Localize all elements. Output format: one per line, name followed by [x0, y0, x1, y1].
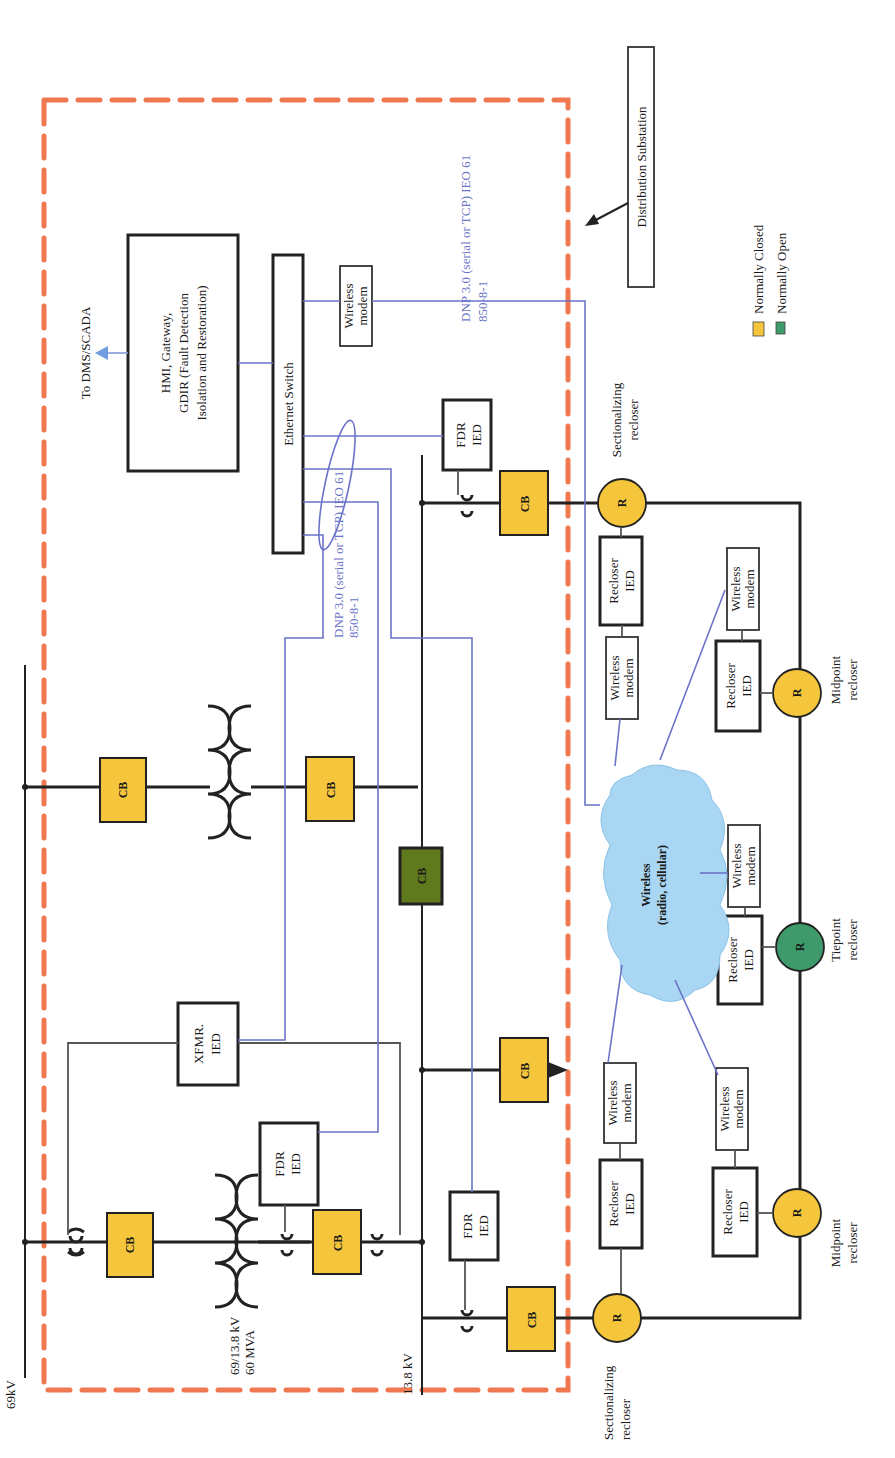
svg-text:CB: CB: [415, 868, 429, 885]
svg-text:Distribution Substation: Distribution Substation: [634, 106, 649, 227]
transformer-icon: [208, 706, 251, 838]
label-69kv: 69kV: [3, 1379, 18, 1409]
svg-text:R: R: [793, 942, 807, 951]
arrow-left-icon: [95, 346, 108, 360]
svg-text:Midpoint: Midpoint: [828, 1218, 843, 1267]
svg-text:R: R: [790, 688, 804, 697]
svg-text:Isolation and Restoration): Isolation and Restoration): [194, 285, 209, 420]
svg-text:Ethernet Switch: Ethernet Switch: [281, 362, 296, 446]
recloser-midpoint-left[interactable]: R: [773, 1189, 821, 1237]
svg-text:Sectionalizing: Sectionalizing: [609, 382, 624, 457]
svg-text:modem: modem: [621, 659, 636, 698]
svg-text:recloser: recloser: [626, 399, 641, 441]
svg-text:IED: IED: [208, 1033, 223, 1055]
arrow-icon: [585, 214, 599, 226]
svg-text:IED: IED: [288, 1153, 303, 1175]
svg-text:Wireless: Wireless: [717, 1087, 732, 1132]
svg-text:CB: CB: [518, 1063, 532, 1080]
svg-text:Wireless: Wireless: [605, 1081, 620, 1126]
svg-text:850-8-1: 850-8-1: [475, 281, 490, 322]
recloser-tiepoint[interactable]: R: [776, 923, 824, 971]
protocol-label-2: DNP 3.0 (serial or TCP) IEO 61: [458, 155, 473, 322]
svg-text:Wireless: Wireless: [607, 656, 622, 701]
svg-text:850-8-1: 850-8-1: [346, 597, 361, 638]
arrow-icon: [548, 1062, 568, 1078]
svg-text:Recloser: Recloser: [606, 1181, 621, 1227]
label-to-dms: To DMS/SCADA: [78, 306, 93, 399]
recloser-sectionalizing-right[interactable]: R: [598, 479, 646, 527]
svg-text:modem: modem: [619, 1084, 634, 1123]
svg-text:HMI, Gateway,: HMI, Gateway,: [158, 313, 173, 393]
svg-text:Wireless: Wireless: [639, 863, 653, 907]
svg-text:Sectionalizing: Sectionalizing: [601, 1365, 616, 1440]
svg-text:Wireless: Wireless: [728, 567, 743, 612]
svg-text:CB: CB: [525, 1312, 539, 1329]
svg-text:GDIR (Fault Detection: GDIR (Fault Detection: [176, 293, 191, 413]
recloser-sectionalizing-left[interactable]: R: [593, 1294, 641, 1342]
svg-text:Recloser: Recloser: [606, 558, 621, 604]
svg-text:recloser: recloser: [845, 919, 860, 961]
svg-text:IED: IED: [622, 1193, 637, 1215]
svg-text:IED: IED: [739, 675, 754, 697]
svg-text:Recloser: Recloser: [725, 937, 740, 983]
svg-text:IED: IED: [622, 570, 637, 592]
svg-text:FDR: FDR: [453, 422, 468, 448]
svg-text:Normally Closed: Normally Closed: [751, 224, 766, 314]
svg-text:60 MVA: 60 MVA: [242, 1329, 257, 1375]
protocol-label-1: DNP 3.0 (serial or TCP) IEO 61: [331, 471, 346, 638]
legend-swatch-closed: [753, 322, 764, 336]
svg-text:modem: modem: [742, 570, 757, 609]
label-13-8kv: 13.8 kV: [400, 1353, 415, 1396]
svg-text:CB: CB: [331, 1235, 345, 1252]
svg-text:(radio, cellular): (radio, cellular): [655, 845, 669, 925]
svg-text:XFMR.: XFMR.: [191, 1024, 206, 1064]
svg-text:modem: modem: [731, 1090, 746, 1129]
svg-text:Recloser: Recloser: [720, 1189, 735, 1235]
legend-swatch-open: [776, 322, 785, 334]
svg-text:IED: IED: [476, 1215, 491, 1237]
svg-text:Normally Open: Normally Open: [774, 232, 789, 314]
svg-text:R: R: [790, 1208, 804, 1217]
svg-text:CB: CB: [518, 496, 532, 513]
svg-text:recloser: recloser: [845, 1222, 860, 1264]
svg-text:IED: IED: [741, 949, 756, 971]
svg-text:Tiepoint: Tiepoint: [828, 918, 843, 962]
svg-text:recloser: recloser: [845, 659, 860, 701]
svg-text:CB: CB: [324, 782, 338, 799]
svg-text:CB: CB: [123, 1237, 137, 1254]
svg-text:IED: IED: [736, 1201, 751, 1223]
svg-text:FDR: FDR: [272, 1151, 287, 1177]
recloser-midpoint-right[interactable]: R: [773, 669, 821, 717]
svg-text:Recloser: Recloser: [723, 663, 738, 709]
svg-text:CB: CB: [116, 782, 130, 799]
svg-text:modem: modem: [743, 847, 758, 886]
svg-text:Wireless: Wireless: [341, 284, 356, 329]
svg-text:Midpoint: Midpoint: [828, 655, 843, 704]
svg-text:R: R: [615, 498, 629, 507]
svg-text:R: R: [610, 1313, 624, 1322]
svg-text:modem: modem: [355, 287, 370, 326]
svg-text:Wireless: Wireless: [729, 844, 744, 889]
svg-text:recloser: recloser: [618, 1398, 633, 1440]
svg-text:IED: IED: [469, 424, 484, 446]
legend: Normally Closed Normally Open: [751, 224, 789, 336]
label-xfmr-rating: 69/13.8 kV: [227, 1316, 242, 1375]
distribution-automation-diagram: 69kV CB 69/13.8 kV 60 MVA CB FDR IED XFM…: [0, 0, 895, 1458]
svg-text:FDR: FDR: [460, 1213, 475, 1239]
